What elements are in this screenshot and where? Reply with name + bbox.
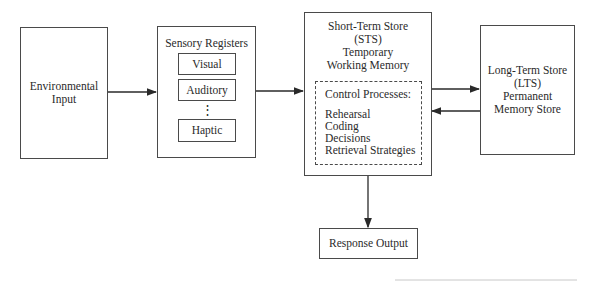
control-process-rehearsal: Rehearsal [325, 108, 370, 121]
lts-line-1: Long-Term Store [488, 64, 567, 77]
environmental-input-line-1: Environmental [30, 80, 98, 93]
lts-line-3: Permanent [503, 90, 552, 103]
register-auditory-label: Auditory [186, 84, 228, 97]
control-process-decisions: Decisions [325, 132, 370, 145]
control-process-retrieval: Retrieval Strategies [325, 144, 415, 157]
response-output-label: Response Output [329, 237, 408, 250]
environmental-input-line-2: Input [52, 93, 76, 106]
control-processes-title: Control Processes: [325, 88, 411, 101]
sts-line-2: (STS) [305, 33, 431, 46]
long-term-store-box: Long-Term Store (LTS) Permanent Memory S… [480, 25, 575, 155]
lts-line-2: (LTS) [514, 77, 541, 90]
lts-line-4: Memory Store [494, 103, 561, 116]
control-processes-box: Control Processes: Rehearsal Coding Deci… [315, 81, 422, 165]
sts-line-4: Working Memory [305, 59, 431, 72]
sts-line-3: Temporary [305, 46, 431, 59]
register-haptic-box: Haptic [178, 119, 236, 142]
register-ellipsis: ⋮ [178, 103, 236, 117]
register-auditory-box: Auditory [178, 79, 236, 101]
response-output-box: Response Output [319, 228, 418, 259]
sensory-registers-title: Sensory Registers [158, 37, 255, 50]
register-visual-box: Visual [178, 53, 236, 75]
sts-line-1: Short-Term Store [305, 20, 431, 33]
register-visual-label: Visual [192, 58, 221, 71]
register-haptic-label: Haptic [192, 124, 223, 137]
control-process-coding: Coding [325, 120, 359, 133]
environmental-input-box: Environmental Input [20, 27, 108, 159]
